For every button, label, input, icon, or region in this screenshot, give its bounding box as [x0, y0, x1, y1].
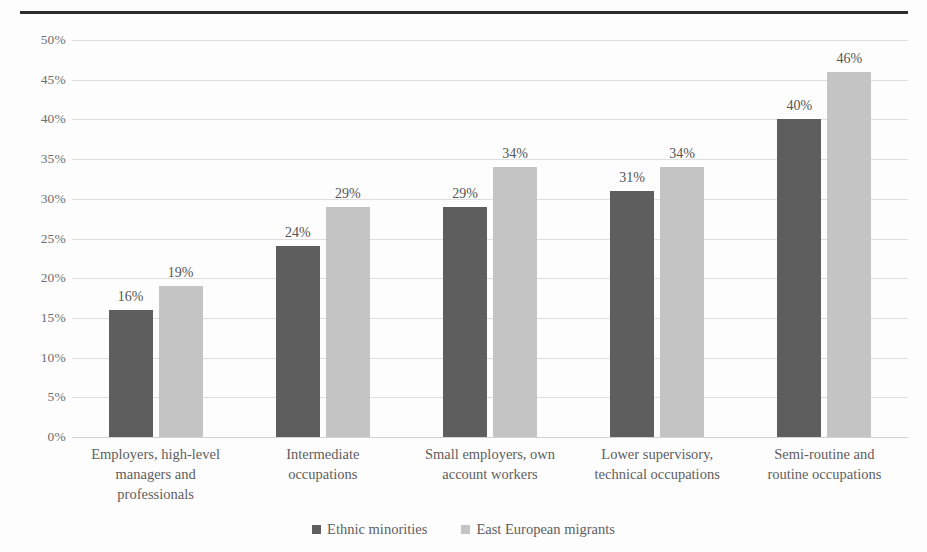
bar-value-label: 34% — [485, 146, 545, 162]
category-label-line: Employers, high-level — [72, 444, 239, 464]
bar-value-label: 29% — [318, 186, 378, 202]
category-label-line: Lower supervisory, — [574, 444, 741, 464]
y-axis-tick-label: 30% — [20, 191, 66, 207]
y-axis-tick-label: 15% — [20, 310, 66, 326]
y-axis-tick-label: 25% — [20, 231, 66, 247]
category-label-line: technical occupations — [574, 464, 741, 484]
bar-group: 16%19% — [109, 40, 203, 437]
bar-value-label: 19% — [151, 265, 211, 281]
bar-group: 40%46% — [777, 40, 871, 437]
category-label-line: routine occupations — [741, 464, 908, 484]
legend-item[interactable]: East European migrants — [461, 521, 615, 538]
bar-value-label: 29% — [435, 186, 495, 202]
bar-ethnic-minorities — [610, 191, 654, 437]
bar-value-label: 46% — [819, 51, 879, 67]
legend-label: East European migrants — [476, 521, 615, 538]
y-axis-tick-label: 20% — [20, 270, 66, 286]
category-label-line: Semi-routine and — [741, 444, 908, 464]
y-axis-tick-label: 50% — [20, 32, 66, 48]
bar-group: 31%34% — [610, 40, 704, 437]
y-axis-tick-label: 45% — [20, 72, 66, 88]
category-label-line: Small employers, own — [406, 444, 573, 464]
y-axis-tick-label: 10% — [20, 350, 66, 366]
bar-group: 24%29% — [276, 40, 370, 437]
legend-label: Ethnic minorities — [327, 521, 427, 538]
bar-ethnic-minorities — [443, 207, 487, 437]
bar-east-european-migrants — [660, 167, 704, 437]
x-axis-category-labels: Employers, high-levelmanagers andprofess… — [72, 444, 908, 506]
y-axis-tick-label: 0% — [20, 429, 66, 445]
plot-area: 16%19%24%29%29%34%31%34%40%46% — [72, 40, 908, 437]
bar-ethnic-minorities — [276, 246, 320, 437]
x-axis-category-label: Lower supervisory,technical occupations — [574, 444, 741, 484]
category-label-line: managers and — [72, 464, 239, 484]
legend-item[interactable]: Ethnic minorities — [312, 521, 427, 538]
bar-ethnic-minorities — [109, 310, 153, 437]
category-label-line: Intermediate — [239, 444, 406, 464]
x-axis-category-label: Employers, high-levelmanagers andprofess… — [72, 444, 239, 504]
bar-east-european-migrants — [493, 167, 537, 437]
bar-value-label: 34% — [652, 146, 712, 162]
bar-east-european-migrants — [827, 72, 871, 437]
x-axis-category-label: Semi-routine androutine occupations — [741, 444, 908, 484]
chart-page: 0%5%10%15%20%25%30%35%40%45%50% 16%19%24… — [0, 0, 927, 552]
top-divider-rule — [20, 11, 908, 14]
y-axis-tick-label: 40% — [20, 111, 66, 127]
bar-ethnic-minorities — [777, 119, 821, 437]
y-axis: 0%5%10%15%20%25%30%35%40%45%50% — [18, 40, 66, 437]
y-axis-tick-label: 35% — [20, 151, 66, 167]
bar-east-european-migrants — [159, 286, 203, 437]
chart-legend: Ethnic minoritiesEast European migrants — [0, 521, 927, 538]
category-label-line: account workers — [406, 464, 573, 484]
category-label-line: professionals — [72, 484, 239, 504]
bar-value-label: 40% — [769, 98, 829, 114]
bar-group: 29%34% — [443, 40, 537, 437]
bar-value-label: 24% — [268, 225, 328, 241]
category-label-line: occupations — [239, 464, 406, 484]
legend-swatch-icon — [312, 525, 321, 534]
gridline-0% — [72, 437, 908, 438]
legend-swatch-icon — [461, 525, 470, 534]
x-axis-category-label: Intermediateoccupations — [239, 444, 406, 484]
bar-value-label: 31% — [602, 170, 662, 186]
bar-value-label: 16% — [101, 289, 161, 305]
y-axis-tick-label: 5% — [20, 389, 66, 405]
bar-east-european-migrants — [326, 207, 370, 437]
x-axis-category-label: Small employers, ownaccount workers — [406, 444, 573, 484]
